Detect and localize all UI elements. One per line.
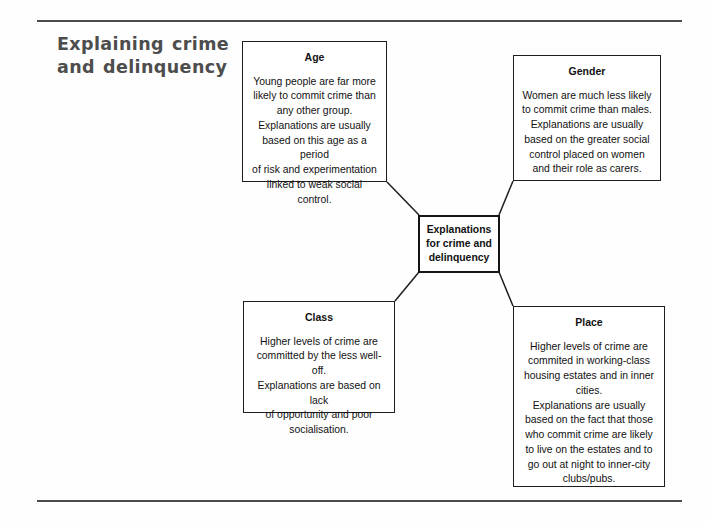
node-class-body: Higher levels of crime are committed by … xyxy=(250,335,388,438)
node-gender-title: Gender xyxy=(522,65,652,78)
diagram-page: Explaining crime and delinquency Age You… xyxy=(0,0,706,526)
connector-gender-to-centre xyxy=(499,181,513,215)
connector-centre-to-place xyxy=(499,272,513,306)
node-centre: Explanations for crime and delinquency xyxy=(418,215,500,273)
node-gender-body: Women are much less likely to commit cri… xyxy=(522,89,652,178)
node-place: Place Higher levels of crime are commite… xyxy=(513,306,665,487)
node-class: Class Higher levels of crime are committ… xyxy=(243,301,395,413)
node-place-title: Place xyxy=(521,316,657,329)
node-centre-label: Explanations for crime and delinquency xyxy=(426,223,492,264)
node-gender: Gender Women are much less likely to com… xyxy=(513,55,661,181)
node-class-title: Class xyxy=(250,311,388,324)
node-place-body: Higher levels of crime are commited in w… xyxy=(521,340,657,488)
node-age-body: Young people are far more likely to comm… xyxy=(250,75,379,208)
node-age-title: Age xyxy=(250,51,379,64)
connector-centre-to-class xyxy=(395,272,419,301)
connector-age-to-centre xyxy=(387,182,419,215)
node-age: Age Young people are far more likely to … xyxy=(242,41,387,182)
